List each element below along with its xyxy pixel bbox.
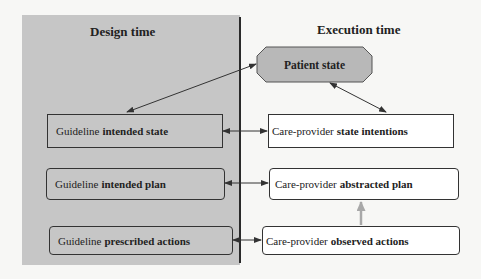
box-prefix: Care-provider <box>275 178 337 190</box>
box-emphasis: abstracted plan <box>340 178 413 190</box>
box-prefix: Care-provider <box>266 235 328 247</box>
guideline-intended-state-box: Guidelineintended state <box>47 114 223 148</box>
box-prefix: Guideline <box>58 235 101 247</box>
care-provider-state-intentions-box: Care-providerstate intentions <box>268 114 454 148</box>
box-prefix: Guideline <box>56 125 99 137</box>
box-emphasis: observed actions <box>331 235 409 247</box>
box-emphasis: prescribed actions <box>104 235 190 247</box>
care-provider-abstracted-plan-box: Care-providerabstracted plan <box>269 168 459 200</box>
box-prefix: Guideline <box>55 178 98 190</box>
care-provider-observed-actions-box: Care-providerobserved actions <box>262 226 460 255</box>
guideline-intended-plan-box: Guidelineintended plan <box>46 168 225 200</box>
guideline-prescribed-actions-box: Guidelineprescribed actions <box>49 226 233 255</box>
arrow-patient-to-guideline-state <box>127 64 256 112</box>
box-emphasis: intended state <box>102 125 168 137</box>
patient-state-label: Patient state <box>257 47 372 82</box>
box-prefix: Care-provider <box>272 125 334 137</box>
box-emphasis: intended plan <box>101 178 166 190</box>
box-emphasis: state intentions <box>337 125 408 137</box>
arrow-patient-to-care-state <box>330 83 386 112</box>
